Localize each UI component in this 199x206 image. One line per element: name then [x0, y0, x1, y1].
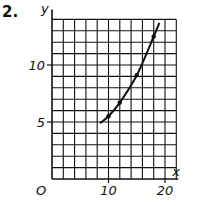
- tick-labels: 1020510: [28, 58, 173, 198]
- data-point: [135, 73, 139, 77]
- data-point: [152, 34, 156, 38]
- origin-label: O: [36, 183, 46, 198]
- data-point: [106, 114, 110, 118]
- x-tick-label: 10: [100, 183, 117, 198]
- data-point: [118, 100, 122, 104]
- x-axis-label: x: [171, 164, 180, 179]
- y-tick-label: 10: [28, 58, 45, 73]
- grid: [52, 19, 176, 179]
- chart: 1020510 x y O: [0, 0, 199, 206]
- y-axis-label: y: [40, 1, 49, 16]
- y-tick-label: 5: [37, 115, 45, 130]
- axes: [52, 9, 178, 179]
- x-tick-label: 20: [157, 183, 174, 198]
